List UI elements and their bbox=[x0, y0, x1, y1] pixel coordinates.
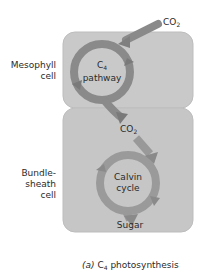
caption-prefix: (a) bbox=[82, 260, 95, 270]
calvin-line1: Calvin bbox=[104, 172, 152, 183]
sugar-label: Sugar bbox=[110, 220, 150, 231]
bundle-sheath-label-line2: sheath bbox=[4, 179, 56, 190]
co2-mid-label: CO2 bbox=[120, 124, 137, 137]
bundle-sheath-label: Bundle- sheath cell bbox=[4, 168, 56, 201]
mesophyll-label-line1: Mesophyll bbox=[4, 60, 56, 71]
co2-mid-sub: 2 bbox=[133, 128, 137, 135]
mesophyll-label: Mesophyll cell bbox=[4, 60, 56, 82]
c4-diagram-graphic bbox=[0, 0, 212, 276]
c4-sub: 4 bbox=[103, 64, 107, 71]
bundle-sheath-label-line1: Bundle- bbox=[4, 168, 56, 179]
bundle-sheath-label-line3: cell bbox=[4, 190, 56, 201]
c4-line2: pathway bbox=[78, 73, 126, 84]
calvin-cycle-label: Calvin cycle bbox=[104, 172, 152, 194]
calvin-line2: cycle bbox=[104, 183, 152, 194]
co2-mid-main: CO bbox=[120, 124, 133, 134]
co2-top-sub: 2 bbox=[176, 21, 180, 28]
co2-top-label: CO2 bbox=[163, 17, 180, 30]
co2-top-main: CO bbox=[163, 17, 176, 27]
c4-pathway-label: C4 pathway bbox=[78, 60, 126, 84]
mesophyll-label-line2: cell bbox=[4, 71, 56, 82]
figure-caption: (a) C4 photosynthesis bbox=[82, 260, 179, 273]
caption-rest: photosynthesis bbox=[108, 260, 179, 270]
